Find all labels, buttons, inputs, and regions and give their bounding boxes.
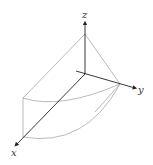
x-axis-label: x	[11, 147, 17, 158]
edge-top-to-left	[23, 34, 85, 98]
lower-curve	[23, 84, 120, 139]
y-axis-label: y	[137, 84, 144, 95]
edge-inner	[95, 84, 120, 112]
upper-curve	[23, 84, 120, 102]
y-axis	[76, 71, 135, 88]
diagram-canvas: z y x	[0, 0, 153, 165]
z-axis-label: z	[81, 9, 88, 20]
edge-top-to-right	[85, 34, 120, 84]
x-axis	[16, 74, 85, 145]
axes	[16, 23, 135, 145]
